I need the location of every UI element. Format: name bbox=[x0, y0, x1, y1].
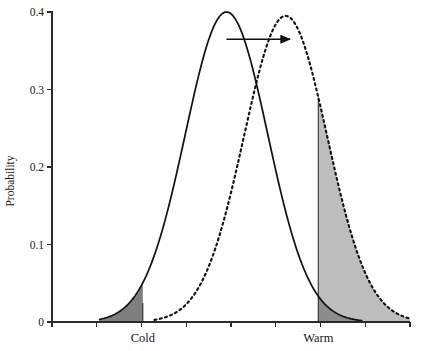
y-axis-tick-labels: 00.10.20.30.4 bbox=[30, 6, 45, 328]
chart-canvas: 00.10.20.30.4 Probability Cold Warm bbox=[0, 0, 421, 351]
y-tick-label-0.3: 0.3 bbox=[30, 84, 45, 96]
y-axis-ticks bbox=[47, 12, 52, 322]
warm-category-label: Warm bbox=[303, 331, 334, 345]
y-tick-label-0.2: 0.2 bbox=[30, 161, 45, 173]
cold-extreme-region bbox=[99, 283, 143, 322]
shaded-regions bbox=[99, 97, 410, 322]
warm-extreme-region bbox=[318, 97, 410, 322]
shifted-climate-curve bbox=[155, 16, 411, 320]
y-axis-title: Probability bbox=[4, 155, 17, 206]
threshold-lines bbox=[143, 97, 318, 322]
x-axis-ticks bbox=[52, 322, 410, 327]
y-tick-label-0.1: 0.1 bbox=[30, 239, 45, 251]
probability-distribution-chart: 00.10.20.30.4 Probability Cold Warm bbox=[0, 0, 421, 351]
y-tick-label-0.4: 0.4 bbox=[30, 6, 45, 18]
cold-category-label: Cold bbox=[131, 331, 156, 345]
y-tick-label-0: 0 bbox=[38, 316, 44, 328]
